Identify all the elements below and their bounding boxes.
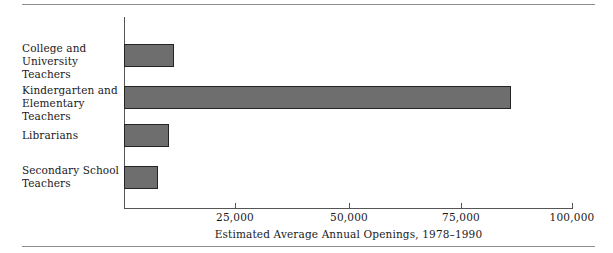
bar-college-university-teachers	[124, 44, 174, 67]
x-axis-title: Estimated Average Annual Openings, 1978–…	[124, 228, 573, 240]
bar-kindergarten-elementary-teachers	[124, 86, 511, 109]
category-label-line-2: University Teachers	[22, 55, 120, 81]
x-tick-mark-100000	[572, 203, 573, 209]
category-label-line-1: College and	[22, 42, 120, 55]
x-tick-mark-25000	[235, 203, 236, 209]
bar-secondary-school-teachers	[124, 166, 158, 189]
x-tick-label-75000: 75,000	[442, 211, 480, 223]
category-label-college-university-teachers: College and University Teachers	[22, 42, 120, 81]
bar-librarians	[124, 124, 169, 147]
category-label-line-1: Secondary School	[22, 164, 120, 177]
category-label-line-1: Kindergarten and	[22, 84, 120, 97]
x-tick-mark-50000	[349, 203, 350, 209]
category-label-librarians: Librarians	[22, 129, 120, 142]
x-tick-label-50000: 50,000	[330, 211, 368, 223]
category-label-kindergarten-elementary-teachers: Kindergarten and Elementary Teachers	[22, 84, 120, 123]
bottom-divider-rule	[22, 246, 595, 247]
top-divider-rule	[22, 4, 595, 5]
x-tick-label-25000: 25,000	[216, 211, 254, 223]
x-tick-label-100000: 100,000	[550, 211, 595, 223]
bar-chart-figure: 25,000 50,000 75,000 100,000 College and…	[0, 0, 613, 253]
category-label-line-2: Elementary Teachers	[22, 97, 120, 123]
category-label-secondary-school-teachers: Secondary School Teachers	[22, 164, 120, 190]
x-tick-mark-75000	[461, 203, 462, 209]
category-label-line-1: Librarians	[22, 129, 120, 142]
category-label-line-2: Teachers	[22, 177, 120, 190]
